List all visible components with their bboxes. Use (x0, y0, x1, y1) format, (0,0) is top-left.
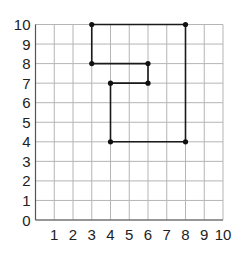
vertex-dot (108, 139, 113, 144)
y-tick-label: 9 (22, 36, 30, 53)
y-tick-label: 0 (22, 212, 30, 229)
x-tick-label: 3 (88, 226, 96, 243)
x-tick-label: 10 (215, 226, 232, 243)
grid-lines (36, 25, 224, 221)
x-tick-label: 9 (200, 226, 208, 243)
x-tick-label: 6 (144, 226, 152, 243)
vertex-dot (145, 61, 150, 66)
x-tick-label: 2 (69, 226, 77, 243)
vertex-dot (89, 22, 94, 27)
x-axis-tick-labels: 12345678910 (50, 226, 231, 243)
y-tick-label: 3 (22, 153, 30, 170)
vertex-dot (183, 22, 188, 27)
x-tick-label: 1 (50, 226, 58, 243)
y-tick-label: 6 (22, 94, 30, 111)
y-tick-label: 2 (22, 172, 30, 189)
y-tick-label: 10 (14, 16, 31, 33)
x-tick-label: 5 (125, 226, 133, 243)
vertex-dot (89, 61, 94, 66)
x-tick-label: 8 (181, 226, 189, 243)
x-tick-label: 7 (163, 226, 171, 243)
x-tick-label: 4 (106, 226, 114, 243)
y-tick-label: 8 (22, 55, 30, 72)
vertex-dot (108, 81, 113, 86)
coordinate-grid-chart: 012345678910 12345678910 (0, 0, 243, 253)
y-tick-label: 7 (22, 75, 30, 92)
y-axis-tick-labels: 012345678910 (14, 16, 31, 229)
vertex-dot (145, 81, 150, 86)
y-tick-label: 4 (22, 133, 30, 150)
vertex-dot (183, 139, 188, 144)
y-tick-label: 5 (22, 114, 30, 131)
y-tick-label: 1 (22, 192, 30, 209)
